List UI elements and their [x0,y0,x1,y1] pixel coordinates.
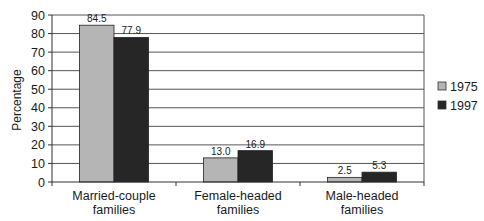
y-axis: 0102030405060708090 [31,9,52,190]
legend-label: 1997 [450,99,478,113]
y-tick-label: 60 [31,64,45,78]
category-label: families [93,203,135,217]
y-tick-label: 90 [31,9,45,23]
y-tick-label: 0 [38,176,45,190]
y-tick-label: 70 [31,46,45,60]
legend-swatch-1997 [438,101,446,109]
category-label: families [217,203,259,217]
y-tick-label: 10 [31,157,45,171]
x-axis: Married-couplefamiliesFemale-headedfamil… [52,182,424,217]
bar-1997-0 [114,37,149,182]
value-label: 16.9 [246,139,266,150]
category-label: families [341,203,383,217]
value-label: 13.0 [211,146,231,157]
legend-swatch-1975 [438,82,446,90]
bars: 84.513.02.577.916.95.3 [80,13,397,182]
value-label: 77.9 [122,25,142,36]
bar-chart: 0102030405060708090 84.513.02.577.916.95… [0,0,484,221]
legend: 19751997 [438,80,478,113]
bar-1975-0 [80,25,115,182]
y-axis-title: Percentage [10,69,24,131]
value-label: 5.3 [372,160,386,171]
bar-1975-2 [328,177,363,182]
y-tick-label: 30 [31,120,45,134]
y-tick-label: 20 [31,138,45,152]
value-label: 84.5 [87,13,107,24]
category-label: Married-couple [72,189,155,203]
bar-1997-2 [362,172,397,182]
y-axis-title-text: Percentage [10,69,24,131]
y-tick-label: 50 [31,83,45,97]
value-label: 2.5 [338,165,352,176]
category-label: Female-headed [194,189,282,203]
category-label: Male-headed [326,189,399,203]
legend-label: 1975 [450,80,478,94]
bar-1975-1 [204,158,239,182]
y-tick-label: 40 [31,101,45,115]
y-tick-label: 80 [31,27,45,41]
bar-1997-1 [238,151,273,182]
